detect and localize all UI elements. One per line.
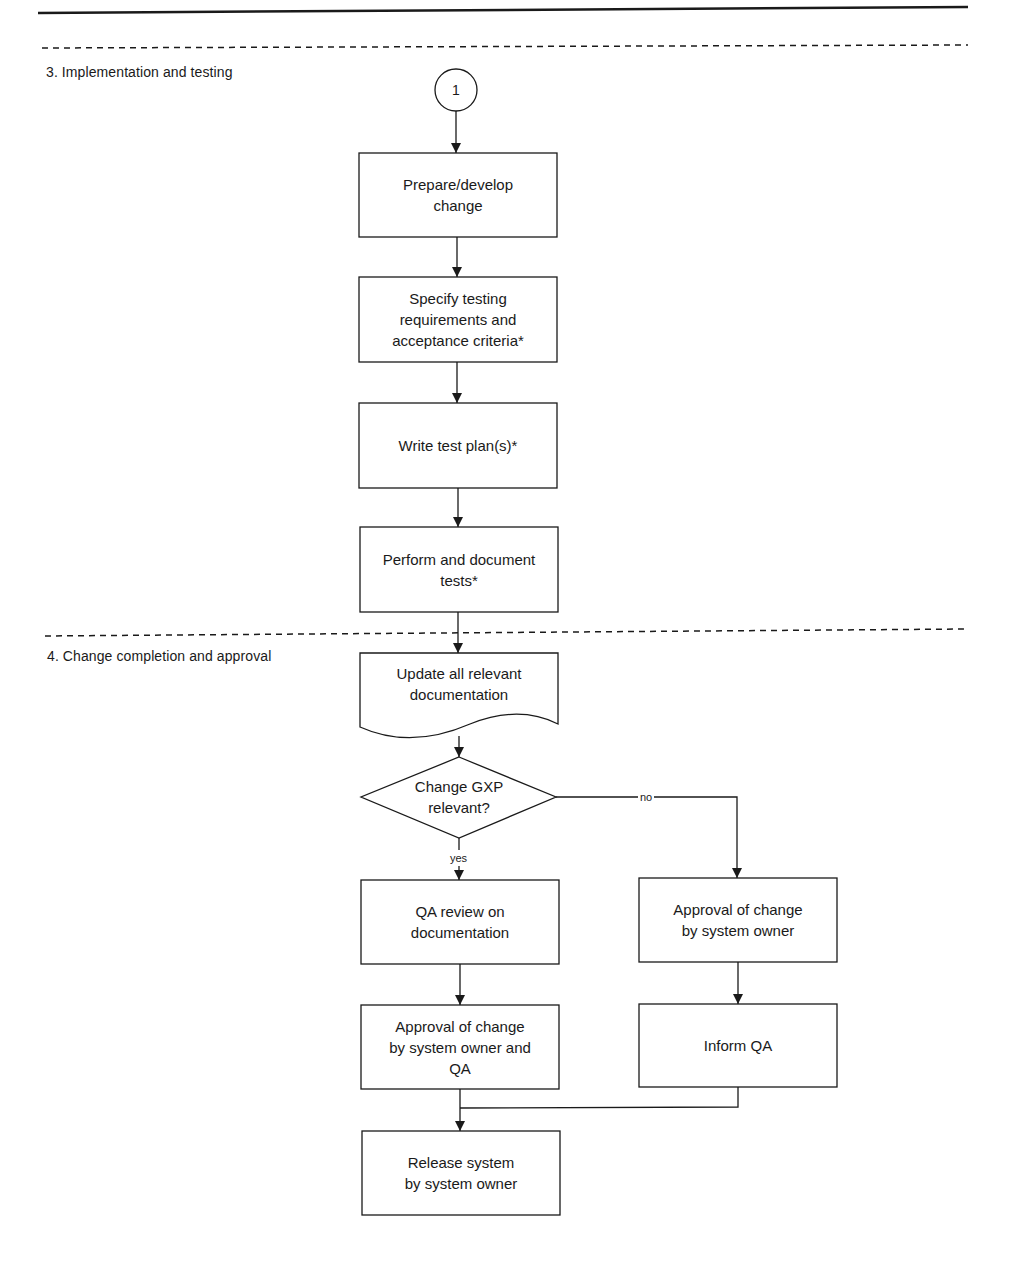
edge-label-no: no	[638, 791, 654, 803]
header-rule	[38, 7, 968, 13]
section-divider-4	[45, 629, 968, 636]
section-label-change-completion: 4. Change completion and approval	[47, 648, 271, 664]
node-write-plan: Write test plan(s)*	[359, 403, 557, 488]
node-approval-owner-qa: Approval of change by system owner and Q…	[361, 1005, 559, 1089]
edge-label-yes: yes	[448, 852, 469, 864]
node-update-docs: Update all relevant documentation	[360, 653, 558, 715]
node-inform-qa: Inform QA	[639, 1004, 837, 1087]
edge-inform-merge	[460, 1087, 738, 1108]
node-prepare: Prepare/develop change	[359, 153, 557, 237]
connector-label: 1	[446, 82, 466, 98]
section-label-implementation-testing: 3. Implementation and testing	[46, 64, 233, 80]
node-release: Release system by system owner	[362, 1131, 560, 1215]
node-specify: Specify testing requirements and accepta…	[359, 277, 557, 362]
node-perform-tests: Perform and document tests*	[360, 527, 558, 612]
node-gxp-decision: Change GXP relevant?	[380, 767, 538, 827]
node-qa-review: QA review on documentation	[361, 880, 559, 964]
section-divider-3	[42, 45, 968, 48]
node-approval-owner: Approval of change by system owner	[639, 878, 837, 962]
edge-decision-no	[556, 797, 737, 878]
